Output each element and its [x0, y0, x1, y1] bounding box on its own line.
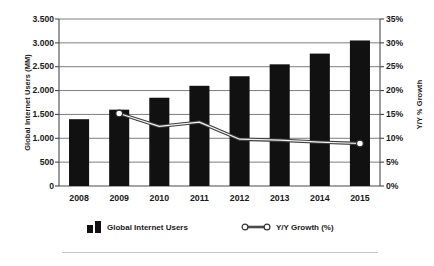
legend-label-bars: Global Internet Users — [107, 223, 188, 232]
line-series-icon — [241, 222, 271, 232]
x-axis-tick-label: 2012 — [220, 193, 260, 209]
x-axis-tick-label: 2010 — [139, 193, 179, 209]
x-axis-tick-label: 2015 — [340, 193, 380, 209]
bar-2008 — [69, 119, 89, 186]
legend-item-global-internet-users: Global Internet Users — [87, 221, 188, 233]
x-axis-tick-label: 2011 — [179, 193, 219, 209]
chart-figure: Global Internet Users (MM) Y/Y % Growth … — [0, 0, 434, 266]
bar-2011 — [189, 86, 209, 186]
x-axis-tick-label: 2014 — [300, 193, 340, 209]
bar-2010 — [149, 98, 169, 186]
chart-legend: Global Internet Users Y/Y Growth (%) — [59, 221, 380, 239]
x-axis-ticks: 20082009201020112012201320142015 — [59, 193, 380, 209]
bar-2012 — [230, 76, 250, 186]
bar-2009 — [109, 110, 129, 186]
legend-label-line: Y/Y Growth (%) — [276, 223, 334, 232]
bar-2013 — [270, 64, 290, 186]
bar-2014 — [310, 54, 330, 186]
footer-divider — [62, 252, 378, 253]
x-axis-tick-label: 2009 — [99, 193, 139, 209]
x-axis-tick-label: 2008 — [59, 193, 99, 209]
growth-marker-2015 — [357, 140, 364, 147]
legend-item-yy-growth: Y/Y Growth (%) — [241, 222, 334, 232]
bar-series-icon — [87, 221, 102, 233]
growth-marker-2009 — [116, 110, 123, 117]
x-axis-tick-label: 2013 — [260, 193, 300, 209]
bar-2015 — [350, 40, 370, 186]
